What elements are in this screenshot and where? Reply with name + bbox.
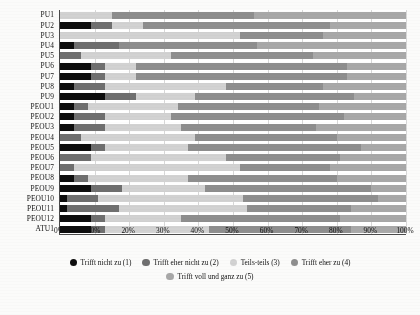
- x-tick-30: 30%: [156, 226, 170, 235]
- y-axis-label-peou3: PEOU3: [0, 122, 57, 132]
- bar-segment-5: [340, 154, 406, 161]
- stacked-bar-chart: PU1PU2PU3PU4PU5PU6PU7PU8PU9PEOU1PEOU2PEO…: [0, 0, 420, 315]
- bar-segment-5: [371, 185, 406, 192]
- bar-segment-3: [81, 52, 171, 59]
- legend-item-4[interactable]: Trifft eher zu (4): [291, 258, 351, 267]
- bar-segment-4: [181, 124, 316, 131]
- bar-segment-5: [347, 63, 406, 70]
- bar-segment-4: [240, 164, 330, 171]
- bar-row: [60, 163, 406, 173]
- legend-label-1: Trifft nicht zu (1): [81, 258, 132, 267]
- y-axis-label-peou11: PEOU11: [0, 204, 57, 214]
- legend-swatch-icon-4: [291, 259, 299, 267]
- bar-row: [60, 71, 406, 81]
- bar-segment-1: [60, 93, 105, 100]
- y-axis-label-peou8: PEOU8: [0, 173, 57, 183]
- bar-segment-2: [67, 195, 98, 202]
- y-axis-label-peou5: PEOU5: [0, 142, 57, 152]
- bar-segment-4: [243, 195, 378, 202]
- x-tick-60: 60%: [260, 226, 274, 235]
- bar-segment-3: [91, 154, 226, 161]
- y-axis-label-peou7: PEOU7: [0, 163, 57, 173]
- bar-segment-3: [60, 32, 240, 39]
- legend-item-5[interactable]: Trifft voll und ganz zu (5): [166, 272, 253, 281]
- bar-segment-3: [105, 83, 226, 90]
- x-tick-80: 80%: [329, 226, 343, 235]
- bar-segment-5: [378, 195, 406, 202]
- bar-segment-3: [81, 134, 195, 141]
- stacked-bar-pu4: [60, 42, 406, 49]
- bar-segment-4: [188, 144, 361, 151]
- bar-segment-4: [240, 32, 323, 39]
- bar-segment-4: [171, 113, 344, 120]
- bar-segment-2: [60, 52, 81, 59]
- bar-segment-2: [91, 63, 105, 70]
- bar-segment-4: [119, 42, 257, 49]
- y-axis-label-pu8: PU8: [0, 81, 57, 91]
- bar-segment-1: [60, 205, 67, 212]
- bar-segment-4: [178, 103, 320, 110]
- chart-legend: Trifft nicht zu (1)Trifft eher nicht zu …: [0, 258, 420, 286]
- bar-segment-3: [98, 195, 243, 202]
- stacked-bar-peou3: [60, 124, 406, 131]
- y-axis-label-pu2: PU2: [0, 20, 57, 30]
- x-tick-70: 70%: [294, 226, 308, 235]
- bar-segment-5: [323, 83, 406, 90]
- bar-segment-1: [60, 144, 91, 151]
- bar-segment-5: [351, 205, 406, 212]
- bar-row: [60, 81, 406, 91]
- bar-segment-2: [74, 103, 88, 110]
- bar-segment-3: [88, 175, 188, 182]
- bar-segment-1: [60, 83, 74, 90]
- legend-item-1[interactable]: Trifft nicht zu (1): [70, 258, 132, 267]
- y-axis-label-pu3: PU3: [0, 30, 57, 40]
- y-axis-label-pu4: PU4: [0, 41, 57, 51]
- bar-segment-4: [136, 63, 347, 70]
- bar-segment-4: [136, 73, 347, 80]
- y-axis-label-peou9: PEOU9: [0, 183, 57, 193]
- legend-item-2[interactable]: Trifft eher nicht zu (2): [142, 258, 218, 267]
- bar-segment-2: [74, 83, 105, 90]
- bar-segment-3: [74, 164, 240, 171]
- bar-segment-3: [105, 73, 136, 80]
- bar-segment-4: [195, 134, 337, 141]
- bar-segment-1: [60, 185, 91, 192]
- bar-segment-2: [67, 205, 119, 212]
- bar-segment-5: [340, 215, 406, 222]
- bar-segment-3: [136, 93, 195, 100]
- y-axis-label-peou4: PEOU4: [0, 132, 57, 142]
- stacked-bar-peou7: [60, 164, 406, 171]
- bar-segment-5: [316, 124, 406, 131]
- bar-segment-3: [122, 185, 205, 192]
- bar-segment-3: [105, 215, 181, 222]
- bar-row: [60, 173, 406, 183]
- legend-item-3[interactable]: Teils-teils (3): [230, 258, 280, 267]
- x-tick-0: 0%: [54, 226, 64, 235]
- stacked-bar-peou8: [60, 175, 406, 182]
- stacked-bar-pu9: [60, 93, 406, 100]
- bar-segment-1: [60, 63, 91, 70]
- stacked-bar-pu3: [60, 32, 406, 39]
- bar-row: [60, 183, 406, 193]
- bar-segment-2: [60, 164, 74, 171]
- bar-row: [60, 30, 406, 40]
- y-axis-label-pu1: PU1: [0, 10, 57, 20]
- bar-segment-3: [112, 22, 143, 29]
- stacked-bar-pu1: [60, 12, 406, 19]
- bar-segment-2: [60, 154, 91, 161]
- bars-plot-region: [59, 10, 406, 235]
- stacked-bar-peou10: [60, 195, 406, 202]
- bar-segment-4: [247, 205, 351, 212]
- stacked-bar-peou2: [60, 113, 406, 120]
- y-axis-category-labels: PU1PU2PU3PU4PU5PU6PU7PU8PU9PEOU1PEOU2PEO…: [0, 10, 57, 234]
- y-axis-label-peou12: PEOU12: [0, 214, 57, 224]
- bar-segment-4: [143, 22, 330, 29]
- bar-segment-2: [74, 113, 105, 120]
- bar-segment-5: [361, 144, 406, 151]
- bar-segment-4: [226, 154, 340, 161]
- y-axis-label-peou6: PEOU6: [0, 153, 57, 163]
- bar-segment-2: [91, 73, 105, 80]
- x-tick-100: 100%: [396, 226, 413, 235]
- bar-segment-2: [91, 22, 112, 29]
- x-tick-50: 50%: [225, 226, 239, 235]
